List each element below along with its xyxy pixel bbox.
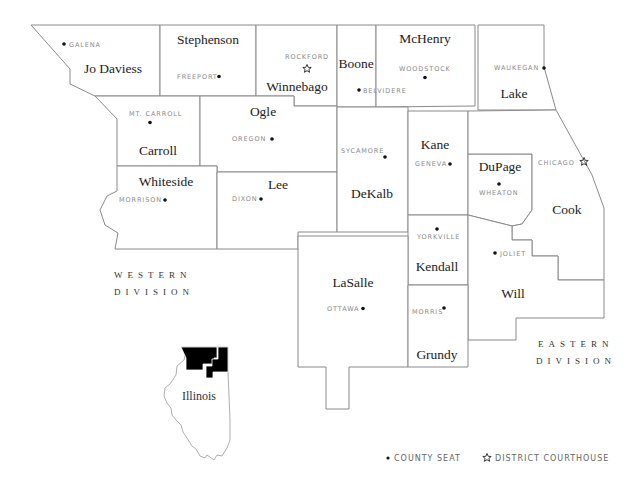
county-label-lasalle: LaSalle	[332, 275, 373, 290]
county-label-winnebago: Winnebago	[266, 79, 328, 94]
seat-label-geneva: GENEVA	[415, 160, 447, 168]
illinois-inset: Illinois	[164, 347, 230, 460]
seat-label-wheaton: WHEATON	[479, 189, 519, 197]
county-label-cook: Cook	[552, 202, 582, 217]
county-lasalle[interactable]	[298, 236, 408, 409]
seat-label-ottawa: OTTAWA	[327, 305, 359, 313]
county-kendall[interactable]	[408, 215, 468, 285]
dot-icon	[497, 182, 501, 186]
western-division-line1: WESTERN	[114, 270, 192, 280]
county-label-kendall: Kendall	[416, 259, 459, 274]
dot-icon	[383, 155, 387, 159]
seat-label-oregon: OREGON	[232, 135, 266, 143]
seat-label-belvidere: BELVIDERE	[363, 87, 407, 95]
legend: COUNTY SEAT DISTRICT COURTHOUSE	[386, 454, 609, 464]
dot-icon	[217, 75, 221, 79]
county-label-kane: Kane	[421, 137, 449, 152]
county-label-lake: Lake	[501, 86, 528, 101]
county-label-boone: Boone	[338, 56, 373, 71]
county-label-mchenry: McHenry	[399, 31, 451, 46]
dot-icon	[357, 88, 361, 92]
star-icon	[483, 454, 491, 462]
dot-icon	[423, 76, 427, 80]
dot-icon	[442, 306, 446, 310]
seat-label-mt-carroll: MT. CARROLL	[129, 110, 182, 118]
county-label-jo-daviess: Jo Daviess	[84, 61, 142, 76]
county-label-carroll: Carroll	[139, 143, 177, 158]
dot-icon	[270, 137, 274, 141]
seat-label-dixon: DIXON	[232, 195, 257, 203]
illinois-label: Illinois	[182, 389, 216, 403]
dot-icon	[163, 198, 167, 202]
seat-label-waukegan: WAUKEGAN	[494, 64, 539, 72]
seat-label-sycamore: SYCAMORE	[341, 147, 384, 155]
county-label-lee: Lee	[268, 177, 288, 192]
dot-icon	[62, 42, 66, 46]
county-label-will: Will	[501, 286, 525, 301]
dot-icon	[435, 227, 439, 231]
dot-icon	[386, 456, 389, 459]
western-division-line2: DIVISION	[114, 287, 194, 297]
seat-label-woodstock: WOODSTOCK	[399, 65, 451, 73]
eastern-division-line2: DIVISION	[536, 356, 616, 366]
county-label-stephenson: Stephenson	[177, 32, 239, 47]
district-map: Jo Daviess Stephenson Winnebago Boone Mc…	[0, 0, 636, 499]
county-label-ogle: Ogle	[250, 104, 276, 119]
dot-icon	[493, 251, 497, 255]
seat-label-freeport: FREEPORT	[177, 73, 218, 81]
seat-label-joliet: JOLIET	[499, 250, 526, 258]
county-label-dekalb: DeKalb	[351, 186, 393, 201]
county-dekalb[interactable]	[337, 107, 408, 232]
seat-label-morris: MORRIS	[412, 308, 443, 316]
eastern-division-line1: EASTERN	[538, 339, 614, 349]
county-label-grundy: Grundy	[416, 347, 457, 362]
seat-label-chicago: CHICAGO	[538, 159, 575, 167]
dot-icon	[361, 307, 365, 311]
legend-county-seat-label: COUNTY SEAT	[394, 454, 461, 463]
county-label-dupage: DuPage	[479, 159, 522, 174]
seat-label-morrison: MORRISON	[119, 196, 162, 204]
dot-icon	[148, 121, 152, 125]
dot-icon	[542, 66, 546, 70]
dot-icon	[448, 162, 452, 166]
dot-icon	[259, 197, 263, 201]
seat-label-galena: GALENA	[69, 41, 101, 49]
seat-label-rockford: ROCKFORD	[285, 53, 329, 61]
legend-courthouse-label: DISTRICT COURTHOUSE	[495, 454, 609, 463]
county-label-whiteside: Whiteside	[139, 174, 194, 189]
seat-label-yorkville: YORKVILLE	[416, 233, 460, 241]
